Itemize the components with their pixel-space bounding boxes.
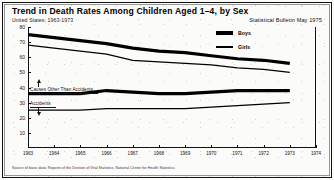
- y-axis-tick-mark: [28, 42, 31, 43]
- x-axis-tick-mark: [316, 145, 317, 148]
- x-axis-tick-label: 1964: [49, 151, 59, 156]
- y-axis-tick-mark: [28, 57, 31, 58]
- x-axis-tick-label: 1968: [154, 151, 164, 156]
- legend-item-girls: Girls: [216, 44, 282, 50]
- legend-item-boys: Boys: [216, 30, 282, 36]
- y-axis-tick-mark: [28, 27, 31, 28]
- chart-subtitle: United States, 1963-1973: [12, 17, 73, 23]
- y-axis-tick-label: 20: [19, 115, 25, 121]
- y-axis-tick-label: 60: [19, 54, 25, 60]
- x-axis-tick-mark: [185, 145, 186, 148]
- y-axis-tick-label: 50: [19, 69, 25, 75]
- x-axis-tick-mark: [80, 145, 81, 148]
- series-line-3: [28, 103, 290, 111]
- y-axis-tick-mark: [28, 133, 31, 134]
- x-axis-tick-label: 1966: [101, 151, 111, 156]
- legend-swatch-boys-icon: [216, 31, 233, 34]
- annotation-rule-causes-other: [30, 93, 98, 94]
- x-axis-tick-mark: [107, 145, 108, 148]
- x-axis-tick-label: 1965: [75, 151, 85, 156]
- x-axis-tick-mark: [290, 145, 291, 148]
- x-axis-tick-label: 1974: [311, 151, 321, 156]
- x-axis-tick-mark: [264, 145, 265, 148]
- y-axis-tick-label: 40: [19, 85, 25, 91]
- x-axis-tick-mark: [211, 145, 212, 148]
- x-axis-tick-label: 1970: [206, 151, 216, 156]
- x-axis-tick-label: 1973: [285, 151, 295, 156]
- y-axis-tick-label: 70: [19, 39, 25, 45]
- x-axis-tick-label: 1963: [23, 151, 33, 156]
- annotation-arrow-accidents-icon: [37, 112, 41, 116]
- legend-label-girls: Girls: [238, 44, 250, 50]
- y-axis-tick-mark: [28, 72, 31, 73]
- annotation-label-accidents: Accidents: [30, 101, 51, 106]
- y-axis-tick-label: 80: [19, 24, 25, 30]
- legend-label-boys: Boys: [238, 30, 251, 36]
- x-axis-tick-mark: [237, 145, 238, 148]
- x-axis-tick-label: 1969: [180, 151, 190, 156]
- chart-legend: Boys Girls: [216, 30, 282, 58]
- y-axis-tick-label: 30: [19, 100, 25, 106]
- x-axis-tick-mark: [54, 145, 55, 148]
- page-title: Trend in Death Rates Among Children Aged…: [12, 6, 249, 16]
- x-axis-tick-mark: [159, 145, 160, 148]
- annotation-rule-accidents: [30, 107, 56, 108]
- annotation-label-causes-other: Causes Other Than Accidents: [30, 87, 93, 92]
- x-axis-tick-label: 1971: [232, 151, 242, 156]
- x-axis-tick-mark: [133, 145, 134, 148]
- legend-swatch-girls-icon: [216, 46, 233, 48]
- x-axis-tick-label: 1967: [128, 151, 138, 156]
- statistical-bulletin-figure: Trend in Death Rates Among Children Aged…: [0, 0, 334, 180]
- x-axis-tick-label: 1972: [259, 151, 269, 156]
- y-axis-tick-mark: [28, 118, 31, 119]
- annotation-arrow-causes-other-icon: [37, 79, 41, 83]
- y-axis-tick-label: 10: [19, 130, 25, 136]
- x-axis-tick-mark: [28, 145, 29, 148]
- bulletin-label: Statistical Bulletin May 1975: [249, 17, 322, 23]
- source-note: Source of basic data: Reports of the Div…: [12, 166, 175, 170]
